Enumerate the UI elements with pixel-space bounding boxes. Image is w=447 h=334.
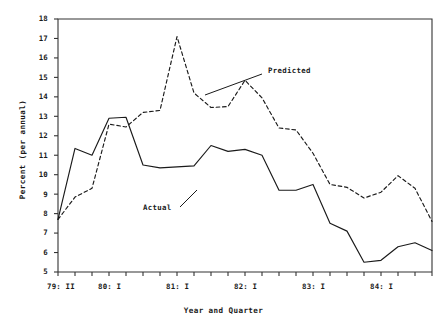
y-tick-label: 13	[24, 112, 48, 121]
leader-line-actual	[180, 190, 197, 207]
y-tick-label: 14	[24, 92, 48, 101]
y-tick-label: 15	[24, 73, 48, 82]
series-line-actual	[58, 117, 432, 262]
y-tick-label: 12	[24, 131, 48, 140]
x-tick-label: 84: I	[370, 282, 393, 291]
leader-line-predicted	[205, 74, 262, 95]
y-tick-label: 8	[24, 209, 48, 218]
x-tick-label: 80: I	[98, 282, 121, 291]
figure-container: Percent (per annual) Year and Quarter 56…	[0, 0, 447, 334]
series-line-predicted	[58, 37, 432, 222]
y-tick-label: 10	[24, 170, 48, 179]
x-tick-label: 82: I	[234, 282, 257, 291]
x-tick-label: 81: I	[166, 282, 189, 291]
series-label-actual: Actual	[143, 203, 172, 212]
y-tick-label: 9	[24, 190, 48, 199]
y-tick-label: 11	[24, 151, 48, 160]
figure-caption	[0, 322, 447, 334]
y-tick-label: 6	[24, 248, 48, 257]
y-tick-label: 18	[24, 14, 48, 23]
y-tick-label: 17	[24, 34, 48, 43]
series-label-predicted: Predicted	[268, 66, 311, 75]
x-tick-label: 79: II	[47, 282, 75, 291]
y-tick-label: 5	[24, 267, 48, 276]
x-tick-label: 83: I	[302, 282, 325, 291]
y-tick-label: 7	[24, 228, 48, 237]
y-tick-label: 16	[24, 53, 48, 62]
